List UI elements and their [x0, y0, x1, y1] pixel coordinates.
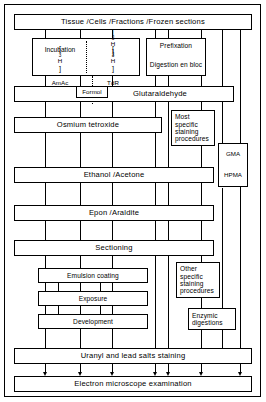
- connector-line-6: [201, 30, 202, 348]
- ar-connector-a1: [58, 283, 59, 291]
- ar-connector-b2: [100, 306, 101, 314]
- formol-connector-top: [92, 76, 93, 86]
- node-development: Development: [38, 314, 148, 329]
- node-tdr: [3H] TdR: [90, 59, 136, 73]
- node-gma: GMA: [219, 144, 247, 165]
- node-glutaraldehyde-bar: Glutaraldehyde: [14, 86, 234, 102]
- node-other-specific-staining: Other specific staining procedures: [176, 262, 220, 298]
- label-incubation: Incubation: [36, 42, 84, 56]
- node-uranyl-lead-staining: Uranyl and lead salts staining: [14, 348, 252, 364]
- node-start: Tissue /Cells /Fractions /Frozen section…: [14, 14, 252, 30]
- node-formol: Formol: [76, 86, 108, 98]
- node-prefixation: Prefixation: [147, 39, 205, 53]
- node-hpma: HPMA: [219, 165, 247, 186]
- node-sectioning: Sectioning: [14, 240, 214, 256]
- node-digestion-en-bloc: Digestion en bloc: [147, 54, 205, 75]
- node-enzymic-digestions: Enzymic digestions: [188, 308, 236, 330]
- node-electron-microscope: Electron microscope examination: [14, 376, 252, 392]
- node-most-specific-staining: Most specific staining procedures: [171, 110, 215, 146]
- ar-connector-b1: [58, 306, 59, 314]
- node-ethanol-acetone: Ethanol /Acetone: [14, 167, 214, 183]
- node-am-ac: [3H] AmAc: [36, 59, 84, 73]
- connector-line-7: [240, 30, 241, 348]
- node-epon-araldite: Epon /Araldite: [14, 205, 214, 221]
- node-osmium-tetroxide: Osmium tetroxide: [14, 117, 162, 133]
- connector-line-5: [168, 30, 169, 348]
- flowchart-figure: Tissue /Cells /Fractions /Frozen section…: [0, 0, 266, 402]
- node-emulsion-coating: Emulsion coating: [38, 268, 148, 283]
- incubation-divider: [86, 41, 87, 73]
- ar-connector-a2: [100, 283, 101, 291]
- connector-line-4: [155, 30, 156, 348]
- node-exposure: Exposure: [38, 291, 148, 306]
